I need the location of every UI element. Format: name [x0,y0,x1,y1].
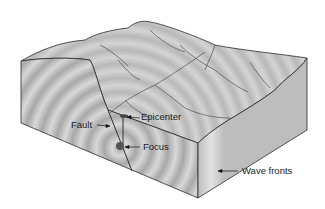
fault-label: Fault [71,120,92,130]
epicenter-label: Epicenter [141,112,181,122]
focus-label: Focus [143,142,169,152]
block-illustration [0,0,325,209]
focus-marker [116,142,124,150]
wave-fronts-label: Wave fronts [242,166,292,176]
earthquake-block-diagram: Fault Epicenter Focus Wave fronts [0,0,325,209]
